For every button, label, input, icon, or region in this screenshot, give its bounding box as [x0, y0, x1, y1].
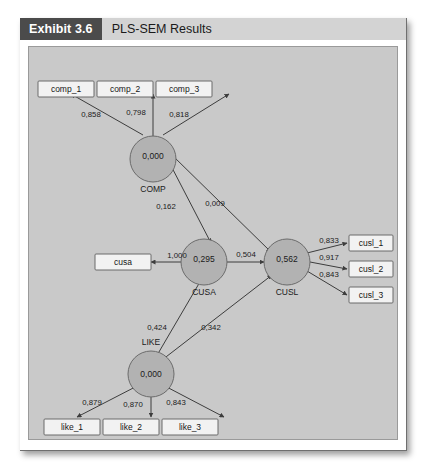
- indicator-label: cusl_3: [359, 290, 384, 300]
- indicator-comp_3[interactable]: comp_3: [156, 81, 212, 97]
- edge-cusl-to-cusl_2: [310, 262, 347, 269]
- exhibit-card: Exhibit 3.6 PLS-SEM Results: [20, 18, 407, 451]
- path-label-comp-cusa: 0,162: [156, 202, 176, 211]
- construct-value: 0,562: [276, 254, 298, 264]
- loading-label-comp_2: 0,798: [126, 108, 146, 117]
- edge-like-to-cusl: [162, 275, 272, 360]
- diagram-panel: comp_1 comp_2 comp_3 cusa cusl_1: [28, 46, 398, 440]
- path-label-comp-cusl: 0,009: [205, 199, 225, 208]
- construct-cusl[interactable]: 0,562 CUSL: [264, 239, 310, 297]
- indicator-label: comp_3: [169, 84, 200, 94]
- pls-sem-path-diagram: comp_1 comp_2 comp_3 cusa cusl_1: [29, 47, 397, 439]
- construct-name: CUSA: [192, 287, 216, 297]
- indicator-label: cusl_1: [359, 238, 384, 248]
- construct-value: 0,295: [193, 254, 215, 264]
- loading-label-cusl_1: 0,833: [319, 236, 339, 245]
- indicator-label: cusl_2: [359, 264, 384, 274]
- indicator-like_3[interactable]: like_3: [162, 419, 218, 435]
- construct-value: 0,000: [140, 369, 162, 379]
- loading-label-like_3: 0,843: [166, 398, 186, 407]
- indicator-cusa[interactable]: cusa: [95, 254, 151, 270]
- construct-name: LIKE: [142, 337, 161, 347]
- indicator-label: like_1: [61, 422, 83, 432]
- path-label-like-cusa: 0,424: [147, 323, 167, 332]
- indicator-label: cusa: [114, 257, 132, 267]
- exhibit-title: PLS-SEM Results: [102, 18, 406, 40]
- screenshot-root: Exhibit 3.6 PLS-SEM Results: [0, 0, 426, 472]
- indicator-like_2[interactable]: like_2: [103, 419, 159, 435]
- loading-label-comp_3: 0,818: [169, 110, 189, 119]
- construct-cusa[interactable]: 0,295 CUSA: [181, 239, 227, 297]
- indicator-cusl_2[interactable]: cusl_2: [349, 261, 393, 277]
- construct-comp[interactable]: 0,000 COMP: [130, 136, 176, 194]
- construct-like[interactable]: 0,000 LIKE: [128, 337, 174, 397]
- path-label-cusa-cusl: 0,504: [236, 250, 256, 259]
- loading-label-like_2: 0,870: [123, 400, 143, 409]
- loading-label-like_1: 0,879: [82, 398, 102, 407]
- indicator-like_1[interactable]: like_1: [44, 419, 100, 435]
- loading-label-cusl_3: 0,843: [319, 270, 339, 279]
- construct-name: CUSL: [276, 287, 299, 297]
- loading-label-comp_1: 0,858: [81, 110, 101, 119]
- loading-label-cusl_2: 0,917: [319, 253, 339, 262]
- indicator-label: comp_2: [110, 84, 141, 94]
- construct-value: 0,000: [142, 151, 164, 161]
- path-label-like-cusl: 0,342: [201, 323, 221, 332]
- construct-name: COMP: [140, 184, 166, 194]
- indicator-label: comp_1: [51, 84, 82, 94]
- exhibit-header: Exhibit 3.6 PLS-SEM Results: [20, 18, 406, 40]
- indicator-label: like_3: [179, 422, 201, 432]
- indicator-label: like_2: [120, 422, 142, 432]
- indicator-cusl_3[interactable]: cusl_3: [349, 287, 393, 303]
- indicator-comp_2[interactable]: comp_2: [97, 81, 153, 97]
- indicator-cusl_1[interactable]: cusl_1: [349, 235, 393, 251]
- exhibit-number: Exhibit 3.6: [20, 18, 102, 40]
- loading-label-cusa: 1,000: [167, 251, 187, 260]
- indicator-comp_1[interactable]: comp_1: [38, 81, 94, 97]
